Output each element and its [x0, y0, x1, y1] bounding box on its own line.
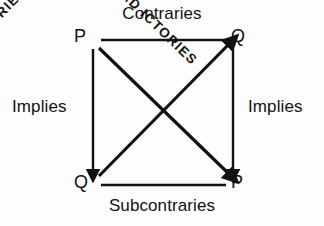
edge-top-label: Contraries: [0, 4, 324, 24]
corner-top-left-label: P: [74, 26, 86, 47]
corner-bottom-right-label: P: [231, 172, 243, 193]
square-of-opposition-diagram: CONTRAD ICTORIES CONTRADI CTORIES Contra…: [0, 0, 324, 226]
edge-right-label: Implies: [248, 97, 303, 117]
edge-bottom-label: Subcontraries: [0, 196, 324, 216]
corner-top-right-label: Q: [231, 26, 245, 47]
corner-bottom-left-label: Q: [74, 172, 88, 193]
edge-left-label: Implies: [12, 97, 67, 117]
